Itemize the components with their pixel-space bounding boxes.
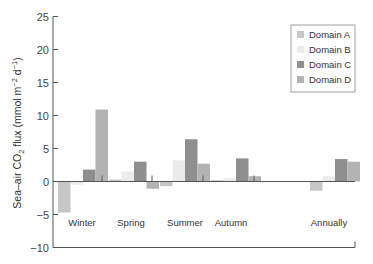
bar (96, 110, 109, 182)
bar (173, 160, 186, 181)
bar (323, 176, 336, 181)
bar (236, 158, 249, 181)
bar (310, 182, 323, 191)
legend-swatch (297, 46, 304, 53)
legend: Domain ADomain BDomain CDomain D (291, 25, 355, 92)
x-category-label: Autumn (215, 217, 248, 228)
y-tick-label: 15 (37, 77, 49, 89)
x-axis: WinterSpringSummerAutumnAnnually (53, 217, 355, 248)
bar (160, 182, 173, 187)
bar (185, 139, 198, 181)
legend-label: Domain D (309, 74, 351, 85)
x-category-label: Annually (311, 217, 348, 228)
y-axis: −10−50510152025 (30, 11, 58, 254)
y-tick-label: −10 (30, 242, 49, 254)
bar (348, 162, 361, 182)
bar (147, 182, 160, 189)
legend-label: Domain C (309, 59, 351, 70)
bar (198, 164, 211, 182)
y-tick-label: −5 (36, 209, 49, 221)
legend-label: Domain B (309, 44, 351, 55)
legend-label: Domain A (309, 29, 351, 40)
y-tick-label: 0 (43, 176, 49, 188)
x-category-label: Winter (68, 217, 95, 228)
x-category-label: Spring (117, 217, 144, 228)
bar-chart: −10−50510152025 WinterSpringSummerAutumn… (0, 0, 373, 264)
bar (83, 170, 96, 182)
bar (134, 162, 147, 182)
bar (58, 182, 71, 213)
x-category-label: Summer (167, 217, 203, 228)
bar (335, 159, 348, 181)
y-tick-label: 20 (37, 44, 49, 56)
y-tick-label: 25 (37, 11, 49, 23)
bar (122, 172, 135, 182)
bar (249, 176, 262, 181)
legend-swatch (297, 31, 304, 38)
y-tick-label: 5 (43, 143, 49, 155)
y-tick-label: 10 (37, 110, 49, 122)
y-axis-label: Sea–air CO2 flux (mmol m−2 d−1) (10, 57, 26, 208)
legend-swatch (297, 61, 304, 68)
plot-area (53, 110, 360, 213)
legend-swatch (297, 76, 304, 83)
